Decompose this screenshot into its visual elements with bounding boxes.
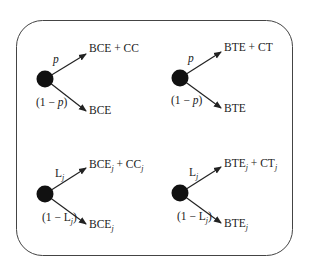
chance-node bbox=[37, 186, 54, 203]
upper-outcome-label: BTEj + CTj bbox=[224, 157, 278, 172]
tree-bottom-left: Lj BCEj + CCj (1 − Lj) BCEj bbox=[37, 158, 145, 233]
chance-node bbox=[172, 185, 189, 202]
lower-prob-label: (1 − p) bbox=[36, 96, 68, 109]
tree-top-right: p BTE + CT (1 − p) BTE bbox=[171, 41, 273, 114]
chance-node bbox=[172, 70, 189, 87]
lower-outcome-label: BCE bbox=[89, 104, 111, 116]
upper-prob-label: Lj bbox=[189, 166, 199, 181]
upper-prob-label: p bbox=[187, 52, 194, 65]
tree-top-left: p BCE + CC (1 − p) BCE bbox=[36, 42, 139, 116]
lower-outcome-label: BCEj bbox=[89, 218, 114, 233]
upper-prob-label: Lj bbox=[55, 167, 65, 182]
tree-bottom-right: Lj BTEj + CTj (1 − Lj) BTEj bbox=[172, 157, 278, 232]
lower-outcome-label: BTE bbox=[224, 102, 246, 114]
lower-outcome-label: BTEj bbox=[224, 217, 249, 232]
chance-node bbox=[37, 71, 54, 88]
upper-outcome-label: BCE + CC bbox=[89, 42, 139, 54]
upper-outcome-label: BTE + CT bbox=[224, 41, 273, 53]
upper-prob-label: p bbox=[52, 53, 59, 66]
lower-prob-label: (1 − p) bbox=[171, 94, 203, 107]
decision-tree-diagram: p BCE + CC (1 − p) BCE p BTE + CT (1 − p… bbox=[0, 0, 309, 269]
upper-outcome-label: BCEj + CCj bbox=[89, 158, 144, 173]
